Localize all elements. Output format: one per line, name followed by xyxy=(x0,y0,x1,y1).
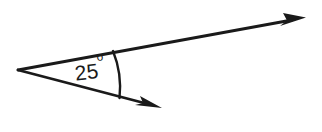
diagram-background xyxy=(0,0,322,132)
angle-diagram-canvas: 25o xyxy=(0,0,322,132)
angle-value: 25 xyxy=(73,59,99,85)
angle-diagram: 25o xyxy=(0,0,322,132)
